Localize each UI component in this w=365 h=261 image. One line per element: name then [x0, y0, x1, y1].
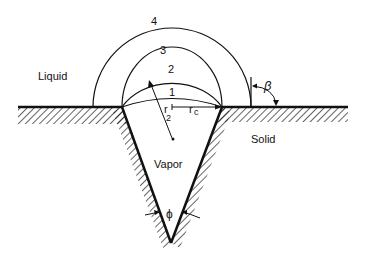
beta-arrowhead-2: [273, 100, 279, 106]
label-interface-2: 2: [168, 63, 174, 75]
label-interface-3: 3: [160, 44, 166, 56]
r2-arrowhead: [148, 80, 154, 88]
solid-hatch-left: [18, 107, 128, 124]
solid-hatch-right: [216, 107, 348, 122]
label-beta: β: [263, 78, 272, 93]
label-interface-4: 4: [151, 15, 157, 27]
label-r2-sub: 2: [166, 113, 171, 123]
r2-center-dot: [172, 138, 175, 141]
diagram-svg: Liquid Solid Vapor 1 2 3 4 β ϕ r 2 r c: [0, 0, 365, 261]
label-liquid: Liquid: [38, 70, 67, 82]
cavity-nucleation-diagram: Liquid Solid Vapor 1 2 3 4 β ϕ r 2 r c: [0, 0, 365, 261]
solid-hatch-left-wall: [113, 107, 171, 248]
cavity-wall-right: [171, 107, 222, 243]
label-interface-1: 1: [169, 86, 175, 98]
label-rc-sub: c: [194, 107, 199, 117]
label-solid: Solid: [251, 133, 275, 145]
label-vapor: Vapor: [154, 158, 183, 170]
cavity-wall-left: [122, 107, 171, 243]
label-rc: r: [189, 103, 193, 115]
label-phi: ϕ: [166, 207, 173, 221]
beta-arrowhead: [252, 84, 257, 89]
solid-hatch-right-wall: [171, 107, 231, 248]
